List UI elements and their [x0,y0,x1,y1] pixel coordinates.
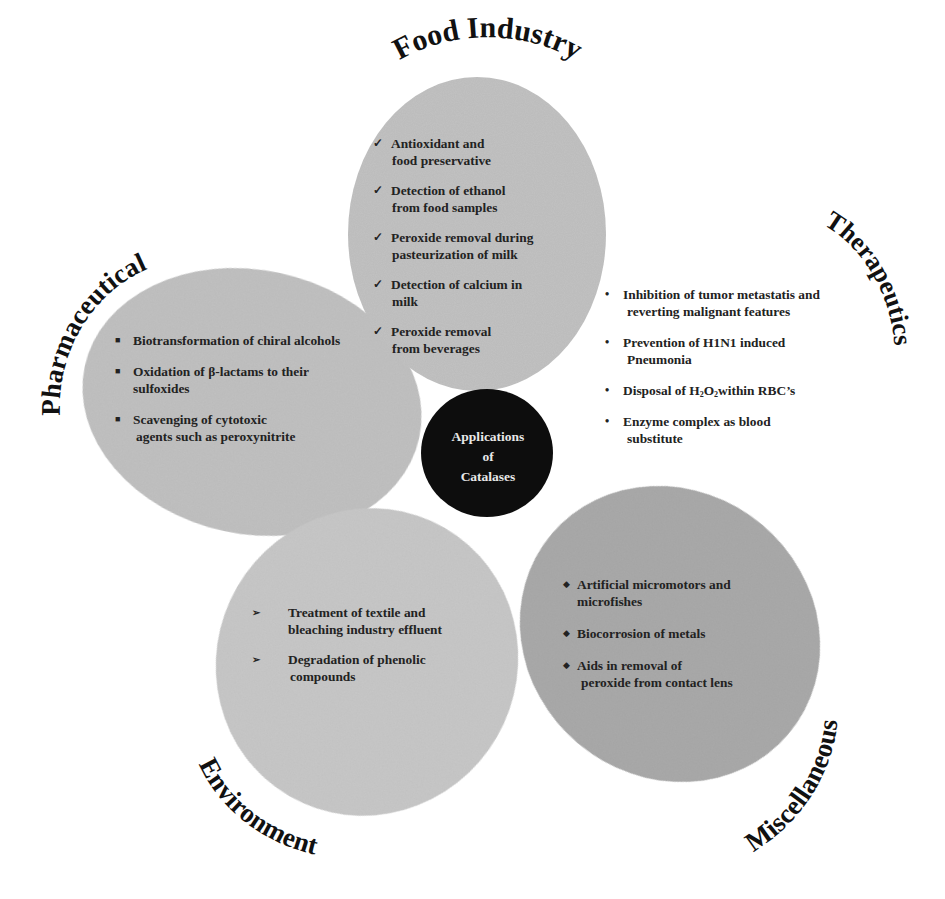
food-industry-title: Food Industry [387,10,588,65]
list-item: ◆ Artificial micromotors and microfishes [563,576,823,610]
item-line-1: Degradation of phenolic [288,651,512,668]
item-line-2: pasteurization of milk [391,246,613,263]
item-line-1: Enzyme complex as blood [623,413,905,430]
square-bullet-icon: ■ [115,411,120,428]
checkmark-icon: ✓ [373,276,383,293]
dot-bullet-icon: • [605,334,609,351]
item-line-1: Inhibition of tumor metastatis and [623,286,905,303]
item-line-2: from beverages [391,340,613,357]
square-bullet-icon: ■ [115,363,120,380]
list-item: ■ Biotransformation of chiral alcohols [115,332,385,349]
therapeutics-list: • Inhibition of tumor metastatis and rev… [605,286,905,461]
item-line-2: milk [391,293,613,310]
item-line-1: Prevention of H1N1 induced [623,334,905,351]
item-line-1: Aids in removal of [577,657,823,674]
checkmark-icon: ✓ [373,182,383,199]
list-item: ◆ Biocorrosion of metals [563,625,823,642]
list-item: ◆ Aids in removal of peroxide from conta… [563,657,823,691]
dot-bullet-icon: • [605,413,609,430]
pharmaceutical-list: ■ Biotransformation of chiral alcohols ■… [115,332,385,459]
list-item: • Inhibition of tumor metastatis and rev… [605,286,905,320]
checkmark-icon: ✓ [373,229,383,246]
list-item: • Enzyme complex as blood substitute [605,413,905,447]
center-label-line-1: Applications [423,427,553,447]
item-line-1: Artificial micromotors and [577,576,823,593]
item-line-1: Peroxide removal [391,323,613,340]
arrow-bullet-icon: ➢ [252,604,260,621]
text-fragment: Disposal of H [623,383,700,398]
item-line-1: Disposal of H2O2within RBC’s [623,382,905,399]
arrow-bullet-icon: ➢ [252,651,260,668]
list-item: • Disposal of H2O2within RBC’s [605,382,905,399]
item-line-2: sulfoxides [133,380,385,397]
dot-bullet-icon: • [605,286,609,303]
item-line-1: Detection of calcium in [391,276,613,293]
dot-bullet-icon: • [605,382,609,399]
item-line-1: Oxidation of β-lactams to their [133,363,385,380]
item-line-1: Biotransformation of chiral alcohols [133,332,385,349]
text-fragment: within RBC’s [718,383,795,398]
list-item: ■ Oxidation of β-lactams to their sulfox… [115,363,385,397]
center-label: Applications of Catalases [423,427,553,487]
item-line-1: Antioxidant and [391,135,613,152]
list-item: ■ Scavenging of cytotoxic agents such as… [115,411,385,445]
checkmark-icon: ✓ [373,135,383,152]
list-item: ✓ Detection of ethanol from food samples [373,182,613,216]
item-line-2: reverting malignant features [623,303,905,320]
list-item: ➢ Degradation of phenolic compounds [252,651,512,685]
list-item: ✓ Peroxide removal during pasteurization… [373,229,613,263]
diamond-bullet-icon: ◆ [563,657,570,674]
diamond-bullet-icon: ◆ [563,576,570,593]
environment-list: ➢ Treatment of textile and bleaching ind… [252,604,512,698]
item-line-2: agents such as peroxynitrite [133,428,385,445]
list-item: ✓ Antioxidant and food preservative [373,135,613,169]
item-line-2: food preservative [391,152,613,169]
text-fragment: O [704,383,714,398]
item-line-1: Peroxide removal during [391,229,613,246]
center-label-line-3: Catalases [423,467,553,487]
miscellaneous-list: ◆ Artificial micromotors and microfishes… [563,576,823,706]
square-bullet-icon: ■ [115,332,120,349]
item-line-2: peroxide from contact lens [577,674,823,691]
center-label-line-2: of [423,447,553,467]
item-line-1: Scavenging of cytotoxic [133,411,385,428]
item-line-2: bleaching industry effluent [288,621,512,638]
item-line-1: Detection of ethanol [391,182,613,199]
item-line-2: from food samples [391,199,613,216]
list-item: ➢ Treatment of textile and bleaching ind… [252,604,512,638]
list-item: ✓ Detection of calcium in milk [373,276,613,310]
item-line-2: microfishes [577,593,823,610]
item-line-2: substitute [623,430,905,447]
catalase-applications-diagram: Food Industry Therapeutics Pharmaceutica… [0,0,945,899]
item-line-2: Pneumonia [623,351,905,368]
diamond-bullet-icon: ◆ [563,625,570,642]
food-industry-list: ✓ Antioxidant and food preservative ✓ De… [373,135,613,370]
list-item: ✓ Peroxide removal from beverages [373,323,613,357]
item-line-1: Biocorrosion of metals [577,625,823,642]
list-item: • Prevention of H1N1 induced Pneumonia [605,334,905,368]
item-line-2: compounds [288,668,512,685]
item-line-1: Treatment of textile and [288,604,512,621]
